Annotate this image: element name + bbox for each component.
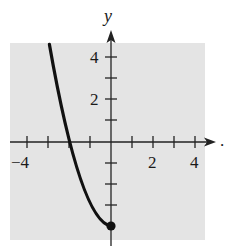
- x-tick-label-2: 2: [148, 153, 157, 172]
- y-tick-label-4: 4: [90, 48, 99, 67]
- y-tick-label-2: 2: [90, 90, 99, 109]
- graph: −4 2 4 4 2 y .: [0, 0, 225, 252]
- x-tick-label-4: 4: [190, 153, 199, 172]
- closed-endpoint: [106, 221, 115, 230]
- y-axis-label: y: [102, 6, 112, 26]
- x-tick-label-neg4: −4: [11, 153, 30, 172]
- trailing-dot: .: [220, 131, 224, 150]
